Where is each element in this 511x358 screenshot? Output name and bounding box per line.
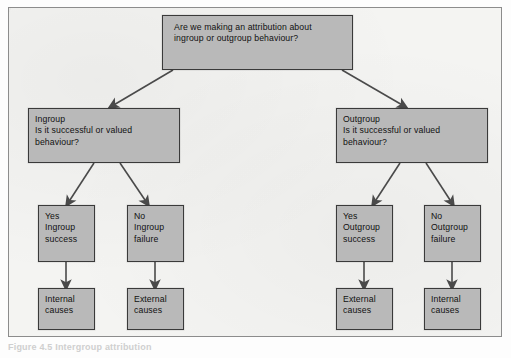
scanned-page: Are we making an attribution about ingro… — [0, 0, 511, 358]
node-outcome-ingroup-success: Internal causes — [38, 288, 95, 330]
node-outgroup-question: Outgroup Is it successful or valued beha… — [336, 108, 488, 163]
node-outgroup-yes: Yes Outgroup success — [336, 205, 393, 262]
node-outcome-outgroup-success: External causes — [336, 288, 393, 330]
node-outcome-outgroup-failure: Internal causes — [424, 288, 481, 330]
node-outcome-ingroup-failure: External causes — [127, 288, 184, 330]
node-outgroup-no: No Outgroup failure — [424, 205, 481, 262]
figure-caption: Figure 4.5 Intergroup attribution — [8, 342, 478, 352]
node-root-question: Are we making an attribution about ingro… — [162, 15, 353, 70]
node-ingroup-no: No Ingroup failure — [127, 205, 184, 262]
node-ingroup-yes: Yes Ingroup success — [38, 205, 95, 262]
node-ingroup-question: Ingroup Is it successful or valued behav… — [28, 108, 180, 163]
